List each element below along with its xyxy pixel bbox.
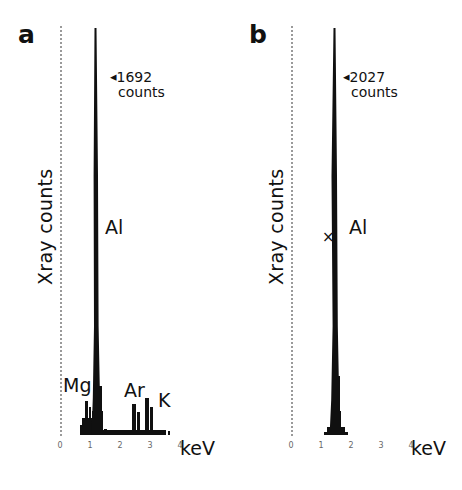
panel-a-element-label-mg: Mg xyxy=(63,374,91,396)
panel-b: b Xray counts ◂2027 counts × Al xyxy=(231,0,462,490)
panel-b-x-marker: × xyxy=(322,228,335,246)
panel-b-x-axis-unit: keV xyxy=(411,437,446,459)
panel-a-x-axis-unit: keV xyxy=(180,437,215,459)
panel-b-tick-0: 0 xyxy=(288,441,293,450)
panel-a-tick-2: 2 xyxy=(117,441,122,450)
panel-a-trace xyxy=(80,28,170,435)
panel-a-y-axis-label: Xray counts xyxy=(34,168,56,285)
panel-b-element-label-al: Al xyxy=(349,216,367,238)
panel-a-letter: a xyxy=(18,22,34,47)
panel-b-tick-2: 2 xyxy=(348,441,353,450)
panel-a-tick-1: 1 xyxy=(87,441,92,450)
panel-b-y-axis-label: Xray counts xyxy=(265,168,287,285)
panel-b-tick-3: 3 xyxy=(378,441,383,450)
panel-b-tick-1: 1 xyxy=(318,441,323,450)
panel-b-letter: b xyxy=(249,22,266,47)
panel-a-element-label-al: Al xyxy=(105,216,123,238)
panel-a-element-label-k: K xyxy=(158,389,170,411)
panel-a-tick-0: 0 xyxy=(57,441,62,450)
panel-a-element-label-ar: Ar xyxy=(124,379,145,401)
xray-spectra-figure: a Xray counts ◂1692 counts xyxy=(0,0,462,490)
panel-a: a Xray counts ◂1692 counts xyxy=(0,0,231,490)
panel-a-tick-3: 3 xyxy=(147,441,152,450)
